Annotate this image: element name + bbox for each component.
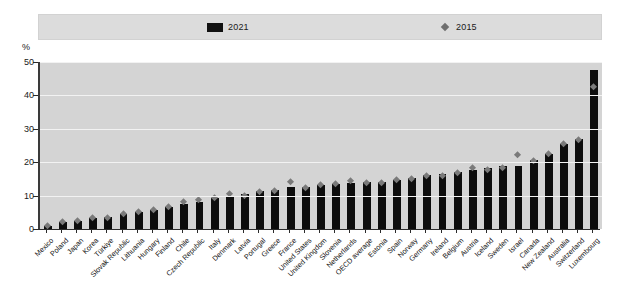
- bar-group: [545, 62, 553, 229]
- bar-group: [378, 62, 386, 229]
- bar-group: [454, 62, 462, 229]
- y-axis-tick-mark: [33, 196, 38, 197]
- bar-group: [469, 62, 477, 229]
- y-axis-tick-label: 10: [14, 191, 34, 201]
- bar-2021: [560, 144, 568, 230]
- bar-group: [408, 62, 416, 229]
- bar-2021: [408, 178, 416, 229]
- bar-2021: [484, 168, 492, 229]
- bar-group: [332, 62, 340, 229]
- bar-group: [59, 62, 67, 229]
- gridline: [40, 129, 602, 130]
- diamond-marker-icon: [441, 23, 449, 31]
- gridline: [40, 62, 602, 63]
- gridline: [40, 162, 602, 163]
- bar-group: [317, 62, 325, 229]
- bar-group: [363, 62, 371, 229]
- chart-legend: 2021 2015: [38, 14, 602, 40]
- black-square-icon: [207, 23, 223, 32]
- y-axis-unit-label: %: [22, 42, 30, 52]
- bar-group: [530, 62, 538, 229]
- bar-group: [560, 62, 568, 229]
- bars-layer: [40, 62, 602, 229]
- bar-group: [423, 62, 431, 229]
- chart-container: 2021 2015 % 01020304050 MexicoPolandJapa…: [0, 0, 638, 296]
- y-axis-tick-mark: [33, 129, 38, 130]
- legend-label-2021: 2021: [228, 22, 249, 32]
- bar-group: [196, 62, 204, 229]
- bar-2021: [530, 160, 538, 229]
- bar-group: [89, 62, 97, 229]
- bar-group: [180, 62, 188, 229]
- bar-group: [590, 62, 598, 229]
- y-axis-tick-label: 50: [14, 57, 34, 67]
- bar-2021: [590, 70, 598, 229]
- bar-group: [256, 62, 264, 229]
- y-axis-tick-mark: [33, 62, 38, 63]
- bar-group: [439, 62, 447, 229]
- bar-group: [287, 62, 295, 229]
- bar-group: [515, 62, 523, 229]
- bar-group: [211, 62, 219, 229]
- bar-group: [484, 62, 492, 229]
- y-axis-tick-mark: [33, 95, 38, 96]
- y-axis-tick-label: 40: [14, 90, 34, 100]
- bar-group: [120, 62, 128, 229]
- x-axis-tick: [46, 229, 47, 233]
- y-axis-tick-label: 0: [14, 224, 34, 234]
- gridline: [40, 95, 602, 96]
- bar-group: [104, 62, 112, 229]
- y-axis-tick-label: 30: [14, 124, 34, 134]
- y-axis-tick-mark: [33, 229, 38, 230]
- y-axis-tick-label: 20: [14, 157, 34, 167]
- plot-area: [38, 62, 602, 229]
- bar-group: [241, 62, 249, 229]
- bar-group: [302, 62, 310, 229]
- bar-group: [44, 62, 52, 229]
- marker-2015: [514, 151, 521, 158]
- legend-item-2021: 2021: [207, 15, 249, 39]
- bar-group: [74, 62, 82, 229]
- gridline: [40, 196, 602, 197]
- bar-group: [135, 62, 143, 229]
- marker-2015: [287, 178, 294, 185]
- legend-label-2015: 2015: [456, 22, 477, 32]
- bar-group: [271, 62, 279, 229]
- bar-group: [575, 62, 583, 229]
- legend-item-2015: 2015: [439, 15, 477, 39]
- bar-group: [499, 62, 507, 229]
- y-axis-tick-mark: [33, 162, 38, 163]
